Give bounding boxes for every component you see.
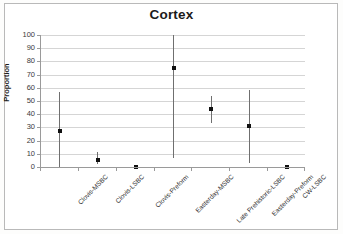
y-axis-tick-mark bbox=[37, 101, 40, 102]
y-axis-tick-mark bbox=[37, 127, 40, 128]
y-axis-tick-label: 70 bbox=[7, 71, 35, 79]
x-axis-tick-label: Easterday-MSBC bbox=[193, 173, 234, 214]
error-bar bbox=[173, 35, 174, 158]
y-axis-tick-mark bbox=[37, 154, 40, 155]
x-axis-tick-label: Clovis-Preform bbox=[153, 173, 189, 209]
x-axis-tick-label: Clovis-MSBC bbox=[76, 173, 109, 206]
figure-page: Cortex Proportion 1009080706050403020100… bbox=[0, 0, 343, 234]
y-axis-tick-label: 20 bbox=[7, 137, 35, 145]
y-axis-tick-mark bbox=[37, 48, 40, 49]
y-axis-tick-label: 100 bbox=[7, 31, 35, 39]
y-axis-tick-label: 30 bbox=[7, 123, 35, 131]
y-axis-tick-label: 10 bbox=[7, 150, 35, 158]
y-axis-title: Proportion bbox=[2, 63, 11, 101]
data-point-marker bbox=[58, 129, 62, 133]
y-axis-tick-mark bbox=[37, 75, 40, 76]
y-axis-tick-mark bbox=[37, 61, 40, 62]
y-axis-tick-label: 60 bbox=[7, 84, 35, 92]
plot-area bbox=[40, 35, 305, 167]
y-axis-tick-mark bbox=[37, 35, 40, 36]
data-point-marker bbox=[172, 66, 176, 70]
y-axis-tick-label: 0 bbox=[7, 163, 35, 171]
x-axis-tick-label: Clovis-LSBC bbox=[114, 173, 145, 204]
y-axis-tick-mark bbox=[37, 141, 40, 142]
y-axis-tick-label: 90 bbox=[7, 44, 35, 52]
y-axis-tick-label: 80 bbox=[7, 57, 35, 65]
chart-title: Cortex bbox=[0, 7, 343, 22]
data-point-marker bbox=[209, 107, 213, 111]
y-axis-tick-mark bbox=[37, 114, 40, 115]
data-point-marker bbox=[96, 158, 100, 162]
y-axis-tick-label: 50 bbox=[7, 97, 35, 105]
y-axis-tick-mark bbox=[37, 88, 40, 89]
x-axis-tick-labels: Clovis-MSBCClovis-LSBCClovis-PreformEast… bbox=[40, 167, 305, 229]
x-axis-tick-label: Late Prehistoric-LSBC bbox=[235, 173, 286, 224]
y-axis-tick-label: 40 bbox=[7, 110, 35, 118]
data-point-marker bbox=[247, 124, 251, 128]
